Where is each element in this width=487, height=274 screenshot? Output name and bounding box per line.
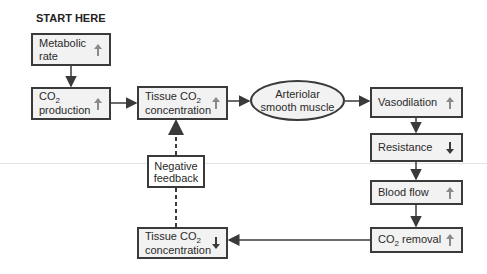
node-resistance: Resistance [370,133,463,162]
node-label-line2: smooth muscle [261,101,335,113]
arrow-up-icon [445,97,455,109]
node-tissue-co2-decrease: Tissue CO2 concentration [137,227,228,259]
subscript: 2 [56,96,60,105]
node-metabolic-rate: Metabolic rate [31,33,111,66]
node-arteriolar-smooth-muscle: Arteriolar smooth muscle [250,80,345,121]
node-label: Blood flow [378,186,445,199]
arrow-up-icon [445,187,455,199]
node-blood-flow: Blood flow [370,180,463,205]
node-label: Resistance [378,141,445,154]
arrow-up-icon [211,97,220,109]
node-label-line1: Tissue CO [145,90,197,102]
arrow-up-icon [445,234,455,246]
arrow-up-icon [93,98,103,110]
node-label-line2: rate [39,50,58,62]
subscript: 2 [197,236,201,245]
node-label-line2: concentration [145,244,211,256]
node-negative-feedback: Negative feedback [147,155,205,188]
node-label-line1: Arteriolar [275,88,320,100]
arrow-down-icon [211,237,220,249]
node-label-line1: CO [39,90,56,102]
node-label-line2: production [39,104,90,116]
node-label-line1: Metabolic [39,37,86,49]
node-label-line2: feedback [154,172,199,184]
node-label: Vasodilation [378,96,445,109]
node-vasodilation: Vasodilation [370,87,463,118]
node-co2-removal: CO2 removal [370,227,463,253]
node-tissue-co2-increase: Tissue CO2 concentration [137,86,228,120]
start-here-title: START HERE [36,12,105,24]
node-label-line1: Negative [154,160,197,172]
node-co2-production: CO2 production [31,87,111,120]
subscript: 2 [395,239,399,248]
arrow-down-icon [445,142,455,154]
arrow-up-icon [93,44,103,56]
subscript: 2 [197,96,201,105]
node-label-line1: Tissue CO [145,230,197,242]
node-label-pre: CO [378,233,395,245]
node-label-post: removal [399,233,441,245]
node-label-line2: concentration [145,104,211,116]
